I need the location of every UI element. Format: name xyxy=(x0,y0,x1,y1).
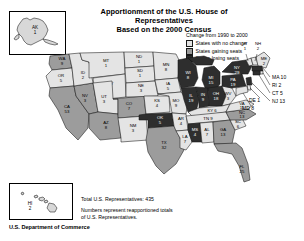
alaska-inset: AK 1 xyxy=(9,11,66,55)
state-pa: PA 19 xyxy=(222,74,246,88)
svg-text:DE 1: DE 1 xyxy=(249,97,260,103)
legend-swatch-icon-no-change xyxy=(186,40,193,47)
alaska-inset-map: AK 1 xyxy=(10,12,65,54)
svg-text:MD 8: MD 8 xyxy=(242,105,254,111)
page-title: Apportionment of the U.S. House of Repre… xyxy=(78,7,250,35)
svg-text:19: 19 xyxy=(231,82,236,87)
state-mn: MN 8 xyxy=(153,52,180,80)
state-az: AZ 8 xyxy=(89,112,121,140)
department-credit: U.S. Department of Commerce xyxy=(9,224,90,230)
svg-text:MA 10: MA 10 xyxy=(272,74,286,80)
title-line-1: Apportionment of the U.S. House of Repre… xyxy=(78,7,250,25)
total-representatives-note: Total U.S. Representatives: 435 xyxy=(81,196,171,203)
hawaii-seats-label: 2 xyxy=(29,206,32,211)
state-ne: NE 3 xyxy=(126,81,158,97)
svg-text:KY 6: KY 6 xyxy=(207,108,217,113)
svg-text:18: 18 xyxy=(214,96,219,101)
legend-heading: Change from 1990 to 2000 xyxy=(186,32,272,39)
state-wa: WA 9 xyxy=(49,54,72,70)
state-al: AL 7 xyxy=(200,122,214,143)
callout-ma: MA 10 xyxy=(263,68,286,80)
alaska-seats-label: 1 xyxy=(34,30,37,35)
state-me: ME 2 xyxy=(256,52,270,68)
state-fl: FL 25 xyxy=(214,143,250,182)
legend-label-no-change: States with no change xyxy=(196,40,247,47)
svg-text:RI 2: RI 2 xyxy=(272,82,281,88)
state-nj xyxy=(246,77,252,85)
svg-text:19: 19 xyxy=(189,98,194,103)
svg-text:TN 9: TN 9 xyxy=(203,116,213,121)
svg-text:29: 29 xyxy=(235,70,240,75)
svg-text:53: 53 xyxy=(65,109,70,114)
state-nd: ND 1 xyxy=(124,52,154,68)
svg-text:CT 5: CT 5 xyxy=(272,90,283,96)
svg-text:15: 15 xyxy=(209,80,214,85)
state-sd: SD 1 xyxy=(125,66,155,83)
svg-text:13: 13 xyxy=(240,114,245,119)
svg-text:25: 25 xyxy=(240,169,245,174)
apportionment-map-figure: Apportionment of the U.S. House of Repre… xyxy=(0,0,304,241)
svg-text:13: 13 xyxy=(221,132,226,137)
svg-text:NJ 13: NJ 13 xyxy=(272,98,285,104)
state-ma xyxy=(252,66,263,71)
state-md xyxy=(236,86,248,96)
state-or: OR 5 xyxy=(46,68,74,88)
state-ks: KS 4 xyxy=(144,96,170,114)
state-ia: IA 5 xyxy=(155,78,181,94)
svg-text:32: 32 xyxy=(162,145,167,150)
state-ct xyxy=(253,71,260,75)
reapportionment-explanation-note: Numbers represent reapportioned totals o… xyxy=(81,207,173,220)
state-ri xyxy=(260,71,263,74)
